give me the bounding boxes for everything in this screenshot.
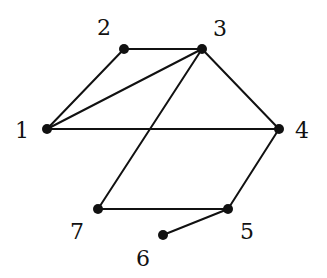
node-3 <box>197 44 207 54</box>
edge-1-2 <box>47 49 124 129</box>
node-6 <box>158 230 168 240</box>
node-4 <box>274 124 284 134</box>
node-label-3: 3 <box>213 16 227 41</box>
node-label-7: 7 <box>70 219 84 244</box>
edge-1-3 <box>47 49 202 129</box>
edge-5-6 <box>163 209 228 235</box>
node-label-5: 5 <box>240 219 254 244</box>
node-2 <box>119 44 129 54</box>
edges-group <box>47 49 279 235</box>
edge-3-4 <box>202 49 279 129</box>
node-1 <box>42 124 52 134</box>
node-5 <box>223 204 233 214</box>
node-label-4: 4 <box>295 118 309 143</box>
node-7 <box>93 204 103 214</box>
graph-diagram: 1234567 <box>0 0 327 278</box>
edge-4-5 <box>228 129 279 209</box>
nodes-group <box>42 44 284 240</box>
node-label-1: 1 <box>15 118 29 143</box>
node-label-6: 6 <box>136 246 150 271</box>
node-label-2: 2 <box>97 15 111 40</box>
